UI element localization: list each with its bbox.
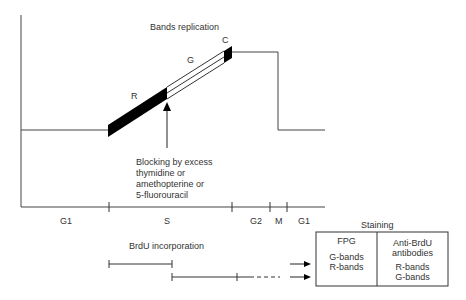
fpg-row-1: G-bands [316, 252, 377, 262]
phase-label-s: S [164, 216, 170, 226]
phase-label-g2: G2 [250, 216, 262, 226]
anti-brdu-header-1: Anti-BrdU [377, 238, 448, 248]
staining-title: Staining [361, 220, 394, 230]
staining-col-fpg: FPG G-bands R-bands [316, 236, 377, 272]
blocking-line-3: amethopterine or [136, 179, 213, 190]
blocking-line-2: thymidine or [136, 168, 213, 179]
band-label-r: R [131, 91, 138, 101]
g-band-bar [167, 51, 224, 99]
anti-brdu-row-2: G-bands [377, 272, 448, 282]
blocking-note: Blocking by excess thymidine or amethopt… [136, 157, 213, 201]
brdu-incorporation-label: BrdU incorporation [129, 241, 204, 251]
band-label-c: C [222, 35, 229, 45]
phase-label-g1: G1 [60, 216, 72, 226]
brdu-bar-1 [109, 260, 172, 268]
band-label-g: G [187, 55, 194, 65]
anti-brdu-row-1: R-bands [377, 262, 448, 272]
brdu-bar-2 [172, 273, 280, 281]
anti-brdu-header-2: antibodies [377, 248, 448, 258]
c-band-bar [224, 46, 232, 63]
blocking-line-1: Blocking by excess [136, 157, 213, 168]
fpg-header: FPG [316, 236, 377, 246]
blocking-line-4: 5-fluorouracil [136, 190, 213, 201]
phase-label-g1-end: G1 [298, 216, 310, 226]
blocking-arrow-head [163, 102, 171, 111]
staining-arrows [290, 261, 311, 280]
staining-col-anti-brdu: Anti-BrdU antibodies R-bands G-bands [377, 238, 448, 282]
bands-replication-title: Bands replication [150, 22, 219, 32]
fpg-row-2: R-bands [316, 262, 377, 272]
phase-label-m: M [275, 216, 283, 226]
g2-plateau [232, 52, 325, 130]
